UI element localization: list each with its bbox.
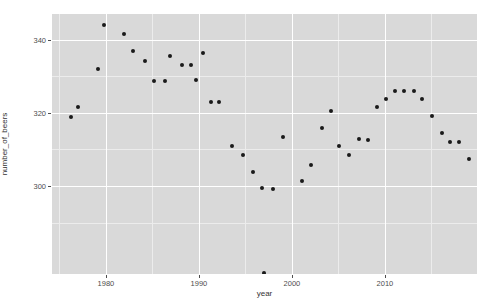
gridline-minor-vertical [431,14,432,274]
data-point [375,105,379,109]
data-point [347,153,351,157]
data-point [393,89,397,93]
data-point [430,114,434,118]
x-axis-tick-label: 2000 [284,279,301,288]
data-point [440,131,444,135]
data-point [467,157,471,161]
data-point [260,186,264,190]
gridline-major-horizontal [52,113,477,114]
y-axis-tick-mark [48,186,51,187]
data-point [262,271,266,274]
gridline-minor-vertical [59,14,60,274]
data-point [189,63,193,67]
data-point [209,100,213,104]
x-axis-tick-mark [199,275,200,278]
data-point [152,79,156,83]
data-point [271,187,275,191]
data-point [281,135,285,139]
data-point [357,137,361,141]
gridline-major-vertical [292,14,293,274]
gridline-major-horizontal [52,40,477,41]
x-axis-tick-mark [106,275,107,278]
data-point [131,49,135,53]
x-axis-tick-mark [292,275,293,278]
y-axis-label: number_of_beers [0,113,9,176]
y-axis-tick-label: 300 [33,182,46,191]
data-point [143,59,147,63]
gridline-minor-horizontal [52,223,477,224]
data-point [241,153,245,157]
plot-panel [52,14,477,274]
data-point [163,79,167,83]
data-point [201,51,205,55]
data-point [194,78,198,82]
x-axis-label: year [52,289,477,298]
data-point [300,179,304,183]
data-point [457,140,461,144]
data-point [230,144,234,148]
data-point [168,54,172,58]
gridline-minor-vertical [152,14,153,274]
data-point [412,89,416,93]
data-point [320,126,324,130]
data-point [337,144,341,148]
y-axis-tick-mark [48,113,51,114]
data-point [180,63,184,67]
gridline-minor-horizontal [52,76,477,77]
data-point [69,115,73,119]
y-axis-tick-label: 340 [33,35,46,44]
data-point [329,109,333,113]
data-point [122,32,126,36]
gridline-major-vertical [199,14,200,274]
data-point [448,140,452,144]
gridline-minor-horizontal [52,149,477,150]
gridline-major-horizontal [52,186,477,187]
x-axis-tick-label: 1990 [191,279,208,288]
data-point [217,100,221,104]
data-point [366,138,370,142]
gridline-major-vertical [106,14,107,274]
data-point [309,163,313,167]
data-point [384,97,388,101]
data-point [96,67,100,71]
x-axis-tick-label: 1980 [98,279,115,288]
y-axis-tick-mark [48,40,51,41]
data-point [420,97,424,101]
y-axis-tick-label: 320 [33,108,46,117]
gridline-minor-vertical [245,14,246,274]
data-point [76,105,80,109]
x-axis-tick-mark [385,275,386,278]
data-point [402,89,406,93]
scatter-plot: year number_of_beers 1980199020002010300… [0,0,495,306]
data-point [251,170,255,174]
gridline-major-vertical [385,14,386,274]
x-axis-tick-label: 2010 [377,279,394,288]
